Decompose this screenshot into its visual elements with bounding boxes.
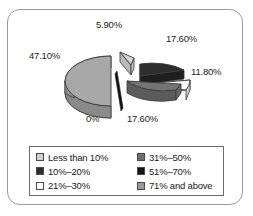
pie-chart-area: 5.90% 17.60% 11.80% 47.10% 0% 17.60% — [8, 10, 244, 143]
pie-slice-51-70 — [115, 71, 123, 111]
slice-label-less-than-10: 5.90% — [96, 19, 122, 30]
legend-item-10-20: 10%–20% — [36, 166, 137, 177]
legend-item-31-50: 31%–50% — [137, 152, 218, 163]
legend-label: 71% and above — [149, 180, 212, 191]
chart-figure-frame: 5.90% 17.60% 11.80% 47.10% 0% 17.60% Les… — [7, 9, 243, 205]
legend-label: 51%–70% — [149, 166, 191, 177]
legend-swatch-icon — [36, 182, 44, 190]
slice-label-51-70: 0% — [86, 113, 99, 124]
slice-label-71-and-above: 47.10% — [29, 50, 60, 61]
slice-label-31-50: 17.60% — [127, 113, 158, 124]
legend-item-less-than-10: Less than 10% — [36, 152, 137, 163]
legend-swatch-icon — [137, 153, 145, 161]
legend-item-51-70: 51%–70% — [137, 166, 218, 177]
pie-slice-71-and-above — [65, 56, 111, 118]
legend-label: 31%–50% — [149, 152, 191, 163]
legend-swatch-icon — [36, 167, 44, 175]
chart-legend: Less than 10% 31%–50% 10%–20% 51%–70% 21… — [29, 146, 224, 196]
slice-label-10-20: 17.60% — [166, 33, 197, 44]
legend-item-71-and-above: 71% and above — [137, 180, 218, 191]
legend-label: Less than 10% — [48, 152, 108, 163]
slice-label-21-30: 11.80% — [191, 66, 221, 77]
legend-swatch-icon — [36, 153, 44, 161]
pie-slice-31-50 — [127, 81, 181, 101]
legend-label: 10%–20% — [48, 166, 90, 177]
pie-slice-less-than-10 — [120, 52, 134, 75]
legend-item-21-30: 21%–30% — [36, 180, 137, 191]
legend-swatch-icon — [137, 167, 145, 175]
legend-swatch-icon — [137, 182, 145, 190]
legend-label: 21%–30% — [48, 180, 90, 191]
